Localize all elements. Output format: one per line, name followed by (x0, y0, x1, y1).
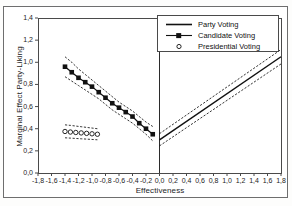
marker-candidate-voting (130, 114, 135, 119)
marker-candidate-voting (144, 126, 149, 131)
legend-entry-party-voting: Party Voting (158, 19, 280, 30)
y-axis-tick-label: 0,2 (11, 147, 33, 154)
marker-candidate-voting (90, 84, 95, 89)
legend-label-candidate-voting: Candidate Voting (198, 30, 255, 41)
y-axis-tick-label: 0,4 (11, 125, 33, 132)
marker-candidate-voting (96, 90, 101, 95)
y-axis-label: Marginal Effect Party-Liking (15, 37, 24, 157)
marker-candidate-voting (150, 132, 155, 137)
figure-canvas: Marginal Effect Party-Liking Effectivene… (0, 0, 292, 206)
marker-candidate-voting (137, 121, 142, 126)
y-axis-tick-label: 1,0 (11, 58, 33, 65)
y-axis-tick-label: 1,2 (11, 36, 33, 43)
legend-label-party-voting: Party Voting (198, 19, 238, 30)
marker-presidential-voting (84, 131, 88, 135)
marker-presidential-voting (95, 132, 99, 136)
marker-candidate-voting (69, 70, 74, 75)
legend-entry-presidential-voting: Presidential Voting (158, 41, 280, 52)
chart-legend: Party Voting Candidate Voting Presidenti… (157, 15, 279, 52)
y-axis-tick-label: 0,8 (11, 80, 33, 87)
y-axis-tick-label: 0,6 (11, 103, 33, 110)
x-axis-tick-label: 1,8 (270, 177, 292, 184)
marker-presidential-voting (79, 131, 83, 135)
y-axis-tick-label: 0,0 (11, 169, 33, 176)
legend-symbol-solid-line (164, 19, 194, 30)
marker-candidate-voting (123, 110, 128, 115)
marker-candidate-voting (76, 75, 81, 80)
marker-presidential-voting (68, 130, 72, 134)
marker-candidate-voting (117, 105, 122, 110)
marker-candidate-voting (110, 101, 115, 106)
marker-candidate-voting (63, 64, 68, 69)
legend-entry-candidate-voting: Candidate Voting (158, 30, 280, 41)
legend-label-presidential-voting: Presidential Voting (198, 41, 260, 52)
marker-presidential-voting (74, 130, 78, 134)
y-axis-tick-label: 1,4 (11, 14, 33, 21)
legend-symbol-line-with-marker (164, 30, 194, 41)
marker-presidential-voting (63, 129, 67, 133)
legend-symbol-open-circle (164, 41, 194, 52)
marker-candidate-voting (103, 95, 108, 100)
x-axis-label: Effectiveness (38, 186, 282, 195)
marker-candidate-voting (83, 80, 88, 85)
marker-presidential-voting (90, 132, 94, 136)
